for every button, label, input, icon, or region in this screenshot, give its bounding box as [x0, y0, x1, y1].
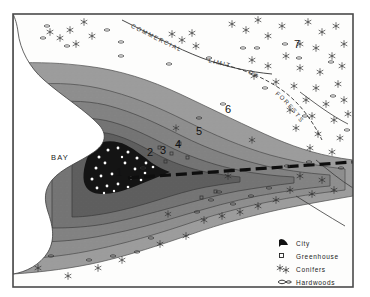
zone-label-4: 4	[175, 138, 181, 150]
zone-label-5: 5	[196, 125, 202, 137]
zone-label-1: 1	[116, 166, 122, 178]
zone-label-2: 2	[147, 146, 153, 158]
zone-label-3: 3	[160, 144, 166, 156]
label-bay: BAY	[51, 153, 69, 162]
legend-label-hardwoods: Hardwoods	[296, 279, 335, 286]
legend-label-greenhouse: Greenhouse	[296, 253, 339, 260]
zone-label-7: 7	[294, 38, 300, 50]
legend-label-conifers: Conifers	[296, 266, 326, 273]
legend-panel: City Greenhouse Conifers Hardwoods	[268, 228, 353, 287]
map-canvas: COMMERCIAL LIMIT OF FORESTS BAY 1 2 3 4 …	[0, 0, 370, 297]
zone-label-6: 6	[225, 103, 231, 115]
legend-label-city: City	[296, 240, 310, 248]
